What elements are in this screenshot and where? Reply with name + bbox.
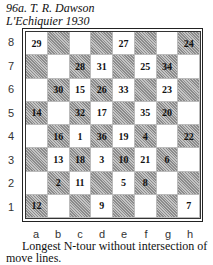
rank-label: 1 (6, 201, 16, 213)
diagram-caption: Longest N-tour without intersection of m… (6, 240, 211, 264)
square-g6: 23 (157, 79, 179, 102)
square-e8: 27 (113, 32, 135, 55)
square-a1: 12 (26, 195, 48, 218)
square-f7: 25 (135, 55, 157, 78)
square-e4: 19 (113, 125, 135, 148)
square-e2: 5 (113, 172, 135, 195)
square-e1 (113, 195, 135, 218)
square-b6: 30 (48, 79, 70, 102)
square-d7: 31 (91, 55, 113, 78)
square-h6 (178, 79, 200, 102)
square-d5: 17 (91, 102, 113, 125)
rank-label: 2 (6, 177, 16, 189)
square-c6: 15 (70, 79, 92, 102)
square-d1: 9 (91, 195, 113, 218)
square-e3: 10 (113, 148, 135, 171)
chess-board: 2927242831253430152633231432173520161361… (25, 31, 201, 219)
rank-label: 4 (6, 130, 16, 142)
square-e6: 33 (113, 79, 135, 102)
square-h1: 7 (178, 195, 200, 218)
square-c3: 18 (70, 148, 92, 171)
square-f8 (135, 32, 157, 55)
square-h7 (178, 55, 200, 78)
square-g8 (157, 32, 179, 55)
square-d2 (91, 172, 113, 195)
square-b5 (48, 102, 70, 125)
square-a8: 29 (26, 32, 48, 55)
square-f6 (135, 79, 157, 102)
square-f5: 35 (135, 102, 157, 125)
square-c1 (70, 195, 92, 218)
diagram-title: 96a. T. R. Dawson L'Echiquier 1930 (6, 2, 94, 28)
problem-source: L'Echiquier 1930 (6, 15, 94, 28)
square-g2 (157, 172, 179, 195)
square-h3 (178, 148, 200, 171)
square-c5: 32 (70, 102, 92, 125)
square-f3: 21 (135, 148, 157, 171)
square-d8 (91, 32, 113, 55)
square-h4: 22 (178, 125, 200, 148)
square-a7 (26, 55, 48, 78)
rank-label: 6 (6, 83, 16, 95)
square-a2 (26, 172, 48, 195)
square-c8 (70, 32, 92, 55)
square-b2: 2 (48, 172, 70, 195)
square-h8: 24 (178, 32, 200, 55)
square-f4: 4 (135, 125, 157, 148)
square-b3: 13 (48, 148, 70, 171)
square-h5 (178, 102, 200, 125)
rank-label: 7 (6, 60, 16, 72)
rank-label: 3 (6, 154, 16, 166)
square-a5: 14 (26, 102, 48, 125)
square-a3 (26, 148, 48, 171)
square-b7 (48, 55, 70, 78)
square-a6 (26, 79, 48, 102)
square-g3: 6 (157, 148, 179, 171)
square-f2: 8 (135, 172, 157, 195)
square-g7: 34 (157, 55, 179, 78)
square-f1 (135, 195, 157, 218)
square-g1 (157, 195, 179, 218)
square-d3: 3 (91, 148, 113, 171)
square-b1 (48, 195, 70, 218)
square-c2: 11 (70, 172, 92, 195)
square-b8 (48, 32, 70, 55)
square-c4: 1 (70, 125, 92, 148)
square-e7 (113, 55, 135, 78)
square-g4 (157, 125, 179, 148)
square-a4 (26, 125, 48, 148)
square-d6: 26 (91, 79, 113, 102)
rank-label: 8 (6, 36, 16, 48)
square-b4: 16 (48, 125, 70, 148)
square-e5 (113, 102, 135, 125)
square-d4: 36 (91, 125, 113, 148)
square-g5: 20 (157, 102, 179, 125)
square-c7: 28 (70, 55, 92, 78)
rank-label: 5 (6, 107, 16, 119)
square-h2 (178, 172, 200, 195)
